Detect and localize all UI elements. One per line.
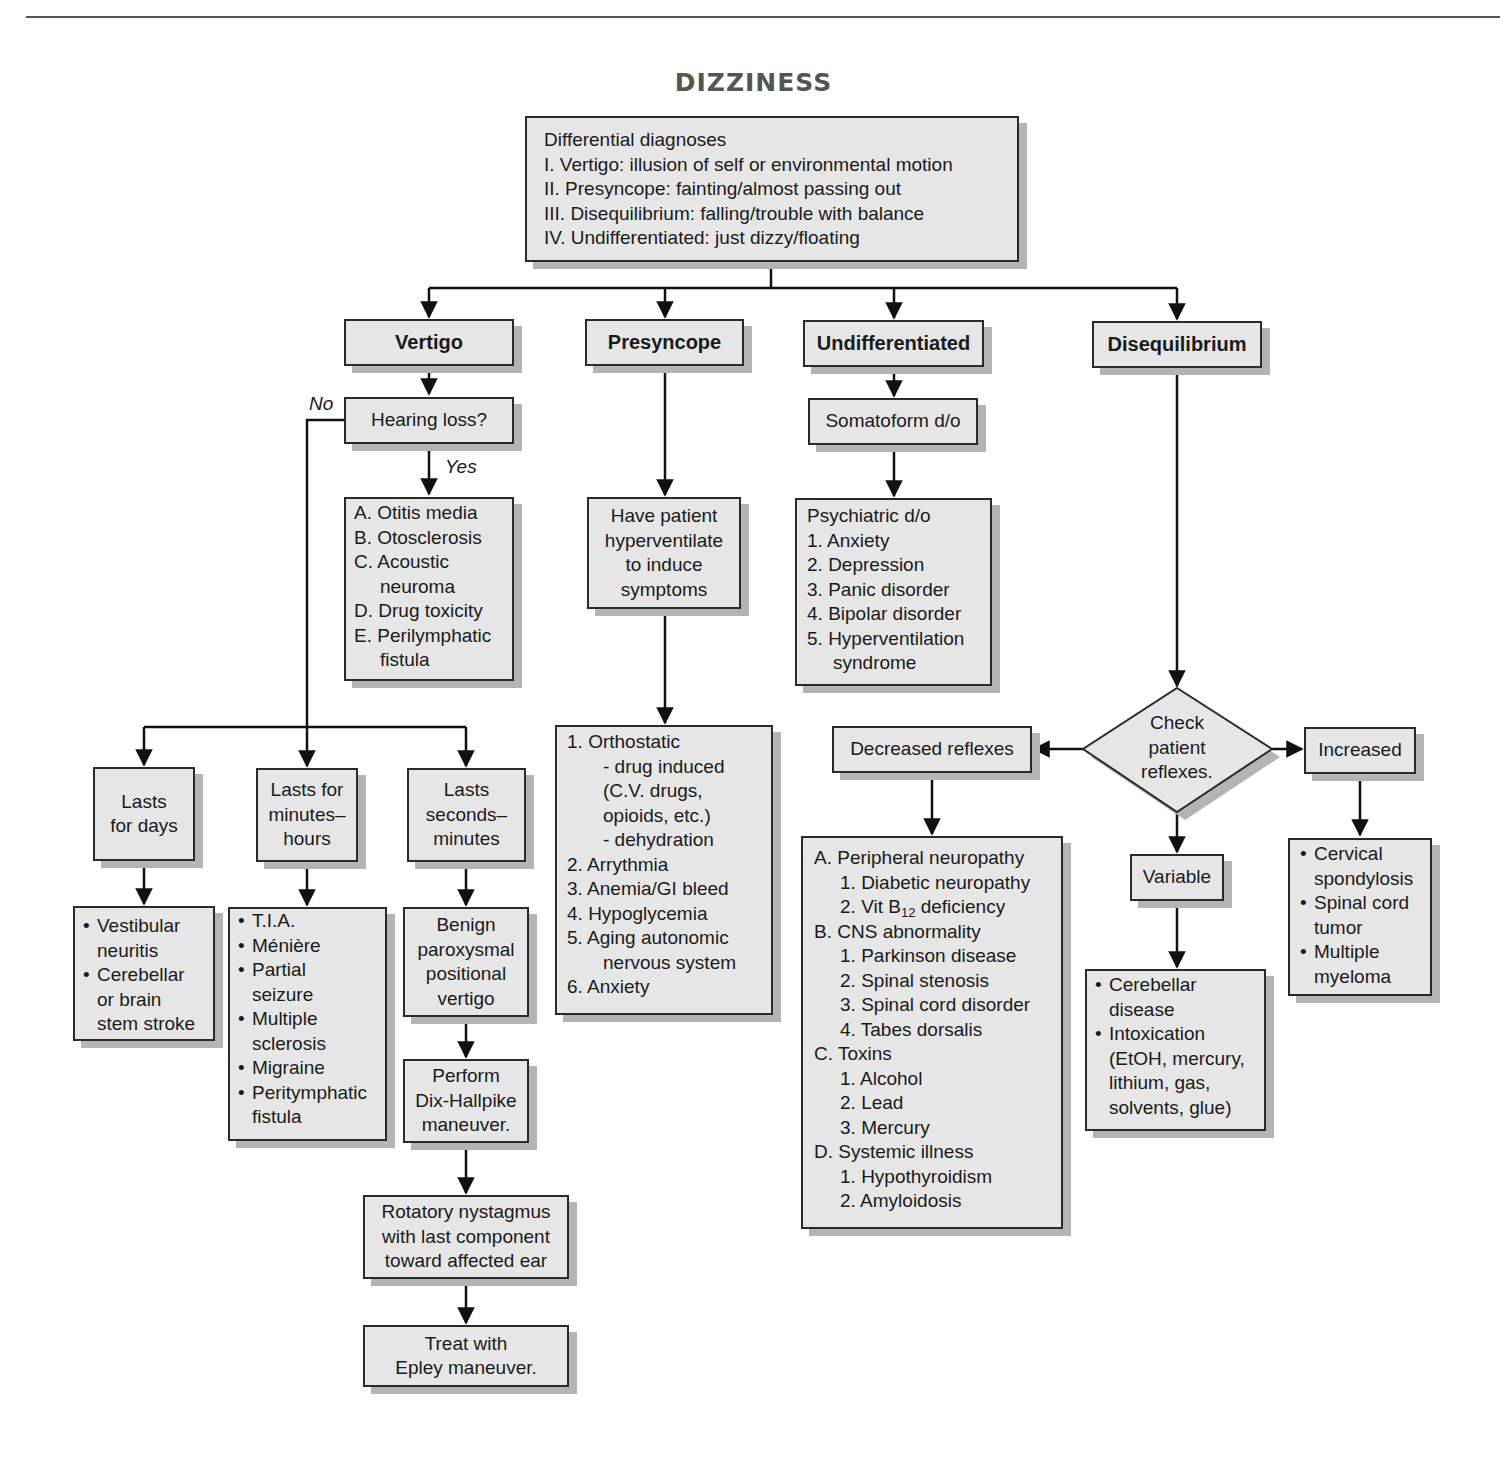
nystagmus-box: Rotatory nystagmus with last component t… — [363, 1195, 569, 1279]
presyncope-box: Presyncope — [585, 319, 744, 366]
psych-item: 4. Bipolar disorder — [807, 602, 990, 627]
vertigo-label: Vertigo — [346, 330, 512, 355]
hearing-loss-question: Hearing loss? — [346, 408, 512, 433]
duration-line: minutes — [409, 827, 524, 852]
decreased-reflexes-box: Decreased reflexes — [832, 726, 1032, 773]
cause-item: 2. Vit B12 deficiency — [814, 895, 1061, 920]
bppv-line: Benign — [405, 913, 527, 938]
cause-item: A. Peripheral neuropathy — [814, 846, 1061, 871]
cause-item: 2. Arrythmia — [567, 853, 771, 878]
bppv-line: vertigo — [405, 987, 527, 1012]
root-line: IV. Undifferentiated: just dizzy/floatin… — [544, 226, 1017, 251]
increased-reflexes-box: Increased — [1304, 727, 1416, 774]
cause-item: 4. Hypoglycemia — [567, 902, 771, 927]
test-line: symptoms — [589, 578, 739, 603]
cause-item: 3. Mercury — [814, 1116, 1061, 1141]
epley-line: Treat with — [365, 1332, 567, 1357]
cause-item: 1. Diabetic neuropathy — [814, 871, 1061, 896]
cause-item: - dehydration — [567, 828, 771, 853]
cause-item: 1. Alcohol — [814, 1067, 1061, 1092]
vertigo-box: Vertigo — [344, 319, 514, 366]
variable-label: Variable — [1132, 865, 1222, 890]
cause-item: A. Otitis media — [354, 501, 512, 526]
reflex-decision-text: Check patient reflexes. — [1117, 711, 1237, 785]
bullet-item: •Cerebellaror brainstem stroke — [83, 963, 213, 1037]
days-causes-box: •Vestibularneuritis •Cerebellaror brains… — [73, 906, 215, 1041]
hearing-loss-causes-box: A. Otitis media B. Otosclerosis C. Acous… — [344, 497, 514, 681]
cause-item: 1. Parkinson disease — [814, 944, 1061, 969]
psych-item: 1. Anxiety — [807, 529, 990, 554]
test-line: hyperventilate — [589, 529, 739, 554]
cause-item: 1. Hypothyroidism — [814, 1165, 1061, 1190]
hearing-loss-question-box: Hearing loss? — [344, 397, 514, 444]
cause-item: 6. Anxiety — [567, 975, 771, 1000]
bullet-item: •Ménière — [238, 934, 385, 959]
duration-line: Lasts — [95, 790, 193, 815]
somatoform-box: Somatoform d/o — [808, 398, 978, 445]
cause-item: opioids, etc.) — [567, 804, 771, 829]
duration-line: minutes– — [258, 803, 356, 828]
nystagmus-line: Rotatory nystagmus — [365, 1200, 567, 1225]
cause-item: - drug induced — [567, 755, 771, 780]
nystagmus-line: toward affected ear — [365, 1249, 567, 1274]
cause-item: 2. Amyloidosis — [814, 1189, 1061, 1214]
cause-item: (C.V. drugs, — [567, 779, 771, 804]
bullet-item: •T.I.A. — [238, 909, 385, 934]
cause-item: C. Acoustic — [354, 550, 512, 575]
duration-line: Lasts for — [258, 778, 356, 803]
lasts-minutes-hours-box: Lasts for minutes– hours — [256, 768, 358, 862]
root-line: I. Vertigo: illusion of self or environm… — [544, 153, 1017, 178]
psych-item: syndrome — [807, 651, 990, 676]
cause-item: 5. Aging autonomic — [567, 926, 771, 951]
cause-item: 3. Anemia/GI bleed — [567, 877, 771, 902]
lasts-seconds-minutes-box: Lasts seconds– minutes — [407, 768, 526, 862]
cause-item-cont: neuroma — [354, 575, 512, 600]
bppv-box: Benign paroxysmal positional vertigo — [403, 907, 529, 1017]
somatoform-label: Somatoform d/o — [810, 409, 976, 434]
bullet-item: •Vestibularneuritis — [83, 914, 213, 963]
minutes-hours-causes-box: •T.I.A. •Ménière •Partialseizure •Multip… — [228, 907, 387, 1141]
disequilibrium-label: Disequilibrium — [1094, 332, 1260, 357]
presyncope-label: Presyncope — [587, 330, 742, 355]
duration-line: hours — [258, 827, 356, 852]
cause-item: B. Otosclerosis — [354, 526, 512, 551]
increased-causes-box: •Cervicalspondylosis •Spinal cordtumor •… — [1288, 838, 1432, 996]
cause-item: D. Systemic illness — [814, 1140, 1061, 1165]
bullet-item: •Multiplesclerosis — [238, 1007, 385, 1056]
lasts-days-box: Lasts for days — [93, 767, 195, 861]
epley-line: Epley maneuver. — [365, 1356, 567, 1381]
presyncope-causes-box: 1. Orthostatic - drug induced (C.V. drug… — [555, 725, 773, 1015]
bullet-item: •Partialseizure — [238, 958, 385, 1007]
bppv-line: paroxysmal — [405, 938, 527, 963]
bullet-item: •Spinal cordtumor — [1300, 891, 1430, 940]
increased-label: Increased — [1306, 738, 1414, 763]
cause-item: nervous system — [567, 951, 771, 976]
psych-item: 3. Panic disorder — [807, 578, 990, 603]
cause-item-cont: fistula — [354, 648, 512, 673]
variable-causes-box: •Cerebellardisease •Intoxication(EtOH, m… — [1085, 969, 1266, 1131]
epley-box: Treat with Epley maneuver. — [363, 1325, 569, 1387]
undifferentiated-label: Undifferentiated — [805, 331, 982, 356]
undifferentiated-box: Undifferentiated — [803, 320, 984, 367]
variable-reflexes-box: Variable — [1130, 854, 1224, 901]
cause-item: C. Toxins — [814, 1042, 1061, 1067]
nystagmus-line: with last component — [365, 1225, 567, 1250]
dix-hallpike-line: Dix-Hallpike — [405, 1089, 527, 1114]
bppv-line: positional — [405, 962, 527, 987]
hyperventilate-test-box: Have patient hyperventilate to induce sy… — [587, 497, 741, 609]
decreased-label: Decreased reflexes — [834, 737, 1030, 762]
root-line: III. Disequilibrium: falling/trouble wit… — [544, 202, 1017, 227]
bullet-item: •Peritymphaticfistula — [238, 1081, 385, 1130]
yes-branch-label: Yes — [445, 456, 477, 478]
duration-line: seconds– — [409, 803, 524, 828]
no-branch-label: No — [309, 393, 333, 415]
psych-item: 5. Hyperventilation — [807, 627, 990, 652]
dix-hallpike-line: Perform — [405, 1064, 527, 1089]
duration-line: for days — [95, 814, 193, 839]
cause-item: E. Perilymphatic — [354, 624, 512, 649]
dix-hallpike-box: Perform Dix-Hallpike maneuver. — [403, 1059, 529, 1143]
cause-item: 3. Spinal cord disorder — [814, 993, 1061, 1018]
cause-item: D. Drug toxicity — [354, 599, 512, 624]
psychiatric-header: Psychiatric d/o — [807, 504, 990, 529]
bullet-item: •Intoxication(EtOH, mercury,lithium, gas… — [1095, 1022, 1264, 1120]
